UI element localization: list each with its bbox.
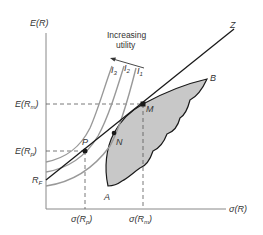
- point-m-label: M: [146, 104, 154, 114]
- increasing-label: Increasing: [107, 30, 146, 40]
- indifference-curve-i3: [46, 66, 112, 162]
- point-n-label: N: [116, 137, 123, 147]
- point-z-label: Z: [229, 20, 236, 30]
- point-p-label: P: [82, 137, 88, 147]
- i2-label: I2: [124, 63, 131, 74]
- efficient-set-region: [106, 79, 207, 186]
- point-n-marker: [112, 131, 117, 136]
- utility-label: utility: [116, 40, 136, 50]
- i3-label: I3: [111, 65, 118, 76]
- x-axis-label: σ(R): [229, 204, 247, 214]
- e-rm-label: E(Rm): [15, 99, 39, 110]
- sigma-rm-label: σ(Rm): [129, 214, 152, 225]
- arrow-head-icon: [110, 58, 116, 62]
- y-axis-label: E(R): [30, 18, 49, 28]
- point-a-label: A: [103, 192, 110, 202]
- portfolio-diagram: E(R) σ(R) E(Rm) E(Rp) RF σ(Rp) σ(Rm) Inc…: [0, 0, 263, 235]
- sigma-rp-label: σ(Rp): [71, 214, 92, 225]
- rf-label: RF: [32, 175, 43, 186]
- point-b-label: B: [210, 73, 216, 83]
- point-m-marker: [141, 102, 146, 107]
- e-rp-label: E(Rp): [15, 146, 37, 157]
- point-p-marker: [83, 149, 88, 154]
